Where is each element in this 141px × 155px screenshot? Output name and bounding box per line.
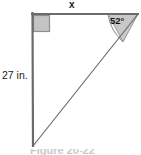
caption-clip: Figure 20-22 (0, 149, 141, 155)
figure-container: x 27 in. 52° Figure 20-22 (0, 0, 141, 155)
label-left-side-length: 27 in. (2, 70, 28, 81)
triangle-side-left (33, 13, 34, 146)
label-angle-measure: 52° (110, 16, 124, 26)
figure-caption: Figure 20-22 (30, 149, 95, 155)
triangle-hypotenuse (33, 14, 138, 146)
label-top-side-x: x (69, 0, 75, 10)
right-angle-marker (34, 16, 50, 32)
